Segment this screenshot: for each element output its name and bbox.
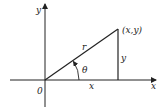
hypotenuse-label: r [82, 42, 87, 52]
angle-arc [74, 62, 80, 81]
horizontal-leg-label: x [89, 81, 94, 91]
origin-label: 0 [37, 86, 43, 96]
point-label: (x,y) [122, 25, 143, 35]
angle-label: θ [82, 65, 88, 75]
y-axis-label: y [35, 5, 42, 15]
polar-coordinates-diagram: y x 0 (x,y) r θ y x [0, 0, 164, 108]
x-axis-label: x [151, 81, 156, 91]
vertical-leg-label: y [120, 53, 127, 63]
